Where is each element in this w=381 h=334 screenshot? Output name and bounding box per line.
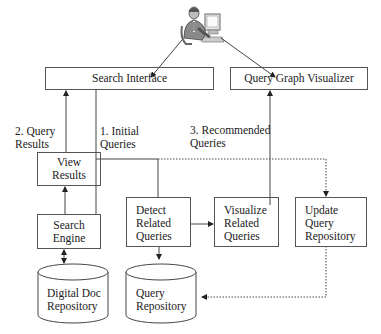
detect-related-queries-node: Detect Related Queries [126,197,191,247]
initial-queries-edge-label: 1. Initial Queries [100,125,139,151]
view-results-node: View Results [37,152,101,186]
visualize-related-queries-node: Visualize Related Queries [214,197,279,247]
search-interface-label: Search Interface [92,72,167,85]
query-results-edge-label: 2. Query Results [15,125,55,151]
search-engine-node: Search Engine [37,214,101,249]
query-graph-visualizer-label: Query Graph Visualizer [244,72,354,85]
update-query-repository-node: Update Query Repository [295,197,367,247]
recommended-queries-edge-label: 3. Recommended Queries [190,124,270,150]
query-graph-visualizer-node: Query Graph Visualizer [230,67,368,90]
search-interface-node: Search Interface [45,67,214,90]
query-repository-node: Query Repository [136,287,186,313]
digital-doc-repository-node: Digital Doc Repository [47,287,101,313]
